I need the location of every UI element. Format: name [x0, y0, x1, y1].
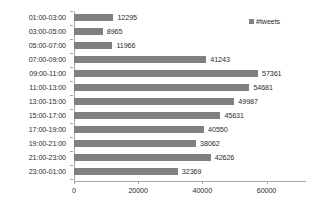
bar-row: 49987 [74, 95, 305, 109]
bar-value-label: 42626 [215, 151, 235, 165]
y-axis-tick [70, 11, 73, 12]
bar-value-label: 8965 [107, 25, 123, 39]
y-axis-tick [70, 53, 73, 54]
y-axis-tick [70, 165, 73, 166]
legend: #tweets [249, 17, 280, 26]
bar-value-label: 45631 [224, 109, 244, 123]
category-axis-labels: 01:00-03:0003:00-05:0005:00-07:0007:00-0… [0, 11, 70, 179]
bar-value-label: 38062 [200, 137, 220, 151]
bar-row: 54681 [74, 81, 305, 95]
bar-row: 11966 [74, 39, 305, 53]
bar-row: 38062 [74, 137, 305, 151]
category-label: 23:00-01:00 [0, 165, 70, 179]
bar [74, 14, 113, 21]
category-label: 11:00-13:00 [0, 81, 70, 95]
y-axis-tick [70, 25, 73, 26]
bar [74, 42, 112, 49]
y-axis-tick [70, 81, 73, 82]
bar-chart: 01:00-03:0003:00-05:0005:00-07:0007:00-0… [0, 0, 313, 212]
category-label: 05:00-07:00 [0, 39, 70, 53]
bar-row: 41243 [74, 53, 305, 67]
x-axis-line [74, 181, 306, 182]
y-axis-tick [70, 109, 73, 110]
bar [74, 140, 196, 147]
bar [74, 154, 211, 161]
bar-value-label: 12295 [117, 11, 137, 25]
x-axis-tick-label: 0 [72, 186, 76, 195]
bar [74, 56, 206, 63]
bar-row: 8965 [74, 25, 305, 39]
x-axis-tick [138, 181, 139, 184]
y-axis-tick [70, 179, 73, 180]
bar-row: 32369 [74, 165, 305, 179]
x-axis-tick [202, 181, 203, 184]
category-label: 17:00-19:00 [0, 123, 70, 137]
y-axis-tick [70, 123, 73, 124]
bar-row: 40550 [74, 123, 305, 137]
category-label: 01:00-03:00 [0, 11, 70, 25]
y-axis-tick [70, 95, 73, 96]
x-axis-tick-label: 40000 [193, 186, 213, 195]
y-axis-tick [70, 151, 73, 152]
bar-value-label: 57361 [262, 67, 282, 81]
category-label: 21:00-23:00 [0, 151, 70, 165]
bar [74, 70, 258, 77]
y-axis-tick [70, 39, 73, 40]
category-label: 19:00-21:00 [0, 137, 70, 151]
y-axis-tick [70, 137, 73, 138]
category-label: 13:00-15:00 [0, 95, 70, 109]
bar-value-label: 49987 [238, 95, 258, 109]
category-label: 07:00-09:00 [0, 53, 70, 67]
bar [74, 28, 103, 35]
bar [74, 126, 204, 133]
category-label: 15:00-17:00 [0, 109, 70, 123]
bar [74, 112, 220, 119]
legend-label: #tweets [256, 17, 280, 26]
bar-row: 45631 [74, 109, 305, 123]
bar-row: 57361 [74, 67, 305, 81]
bar-value-label: 54681 [253, 81, 273, 95]
plot-area: 1229589651196641243573615468149987456314… [74, 11, 305, 179]
bar [74, 168, 178, 175]
bar [74, 84, 249, 91]
bar-row: 42626 [74, 151, 305, 165]
x-axis-tick [267, 181, 268, 184]
x-axis-tick [74, 181, 75, 184]
x-axis-tick-label: 20000 [128, 186, 148, 195]
x-axis-tick-label: 60000 [257, 186, 277, 195]
bar [74, 98, 234, 105]
bar-value-label: 11966 [116, 39, 135, 53]
category-label: 09:00-11:00 [0, 67, 70, 81]
bar-value-label: 40550 [208, 123, 228, 137]
bar-value-label: 41243 [210, 53, 230, 67]
bar-value-label: 32369 [182, 165, 202, 179]
category-label: 03:00-05:00 [0, 25, 70, 39]
legend-swatch-icon [249, 19, 254, 24]
y-axis-tick [70, 67, 73, 68]
